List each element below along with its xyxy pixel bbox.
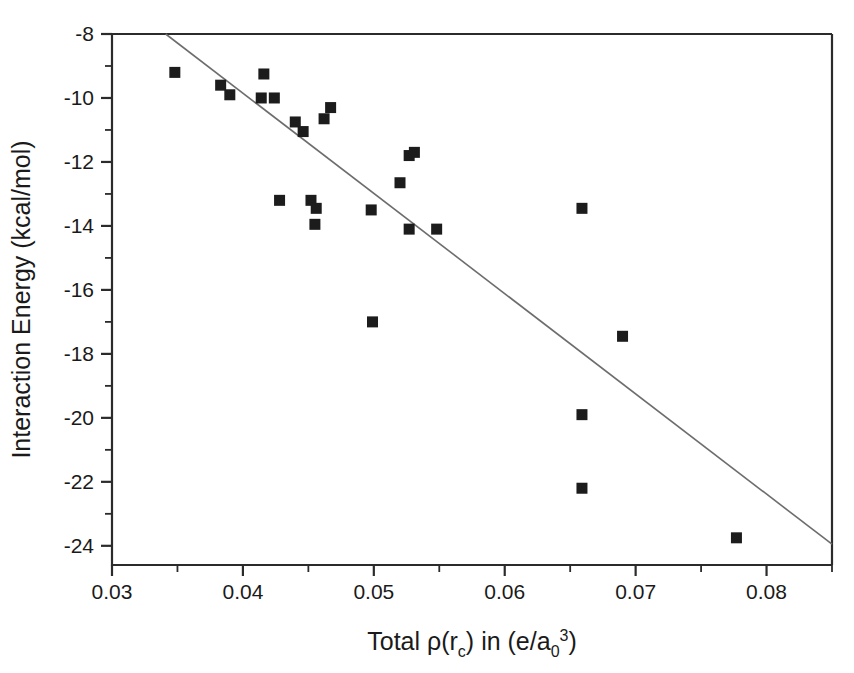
- x-tick-label: 0.03: [92, 580, 133, 603]
- data-point: [215, 80, 226, 91]
- data-point: [325, 102, 336, 113]
- data-point: [269, 92, 280, 103]
- data-point: [576, 483, 587, 494]
- data-point: [298, 126, 309, 137]
- x-tick-label: 0.08: [746, 580, 787, 603]
- y-tick-label: -24: [64, 534, 95, 557]
- data-points: [169, 67, 742, 543]
- data-point: [169, 67, 180, 78]
- y-tick-label: -12: [64, 150, 94, 173]
- y-tick-label: -20: [64, 406, 94, 429]
- data-point: [576, 409, 587, 420]
- data-point: [367, 316, 378, 327]
- regression-line: [166, 34, 832, 544]
- data-point: [731, 532, 742, 543]
- data-point: [617, 331, 628, 342]
- data-point: [274, 195, 285, 206]
- data-point: [409, 147, 420, 158]
- figure-container: 0.030.040.050.060.070.08-8-10-12-14-16-1…: [0, 0, 854, 673]
- y-axis-title: Interaction Energy (kcal/mol): [7, 140, 35, 458]
- x-tick-label: 0.07: [615, 580, 656, 603]
- data-point: [224, 89, 235, 100]
- data-point: [258, 68, 269, 79]
- plot-frame: [112, 34, 832, 565]
- data-point: [576, 203, 587, 214]
- scatter-plot: 0.030.040.050.060.070.08-8-10-12-14-16-1…: [0, 0, 854, 673]
- y-tick-label: -22: [64, 470, 94, 493]
- y-tick-label: -10: [64, 86, 94, 109]
- y-tick-label: -16: [64, 278, 94, 301]
- axis-group: [101, 34, 832, 576]
- x-axis-title: Total ρ(rc) in (e/a03): [367, 627, 577, 660]
- x-tick-label: 0.05: [353, 580, 394, 603]
- data-point: [256, 92, 267, 103]
- data-point: [290, 116, 301, 127]
- data-point: [309, 219, 320, 230]
- data-point: [319, 113, 330, 124]
- y-tick-label: -8: [75, 22, 94, 45]
- y-tick-label: -14: [64, 214, 95, 237]
- data-point: [404, 224, 415, 235]
- x-tick-label: 0.04: [222, 580, 263, 603]
- x-tick-label: 0.06: [484, 580, 525, 603]
- data-point: [366, 204, 377, 215]
- data-point: [311, 203, 322, 214]
- data-point: [431, 224, 442, 235]
- fit-line: [166, 34, 832, 544]
- data-point: [395, 177, 406, 188]
- y-tick-label: -18: [64, 342, 94, 365]
